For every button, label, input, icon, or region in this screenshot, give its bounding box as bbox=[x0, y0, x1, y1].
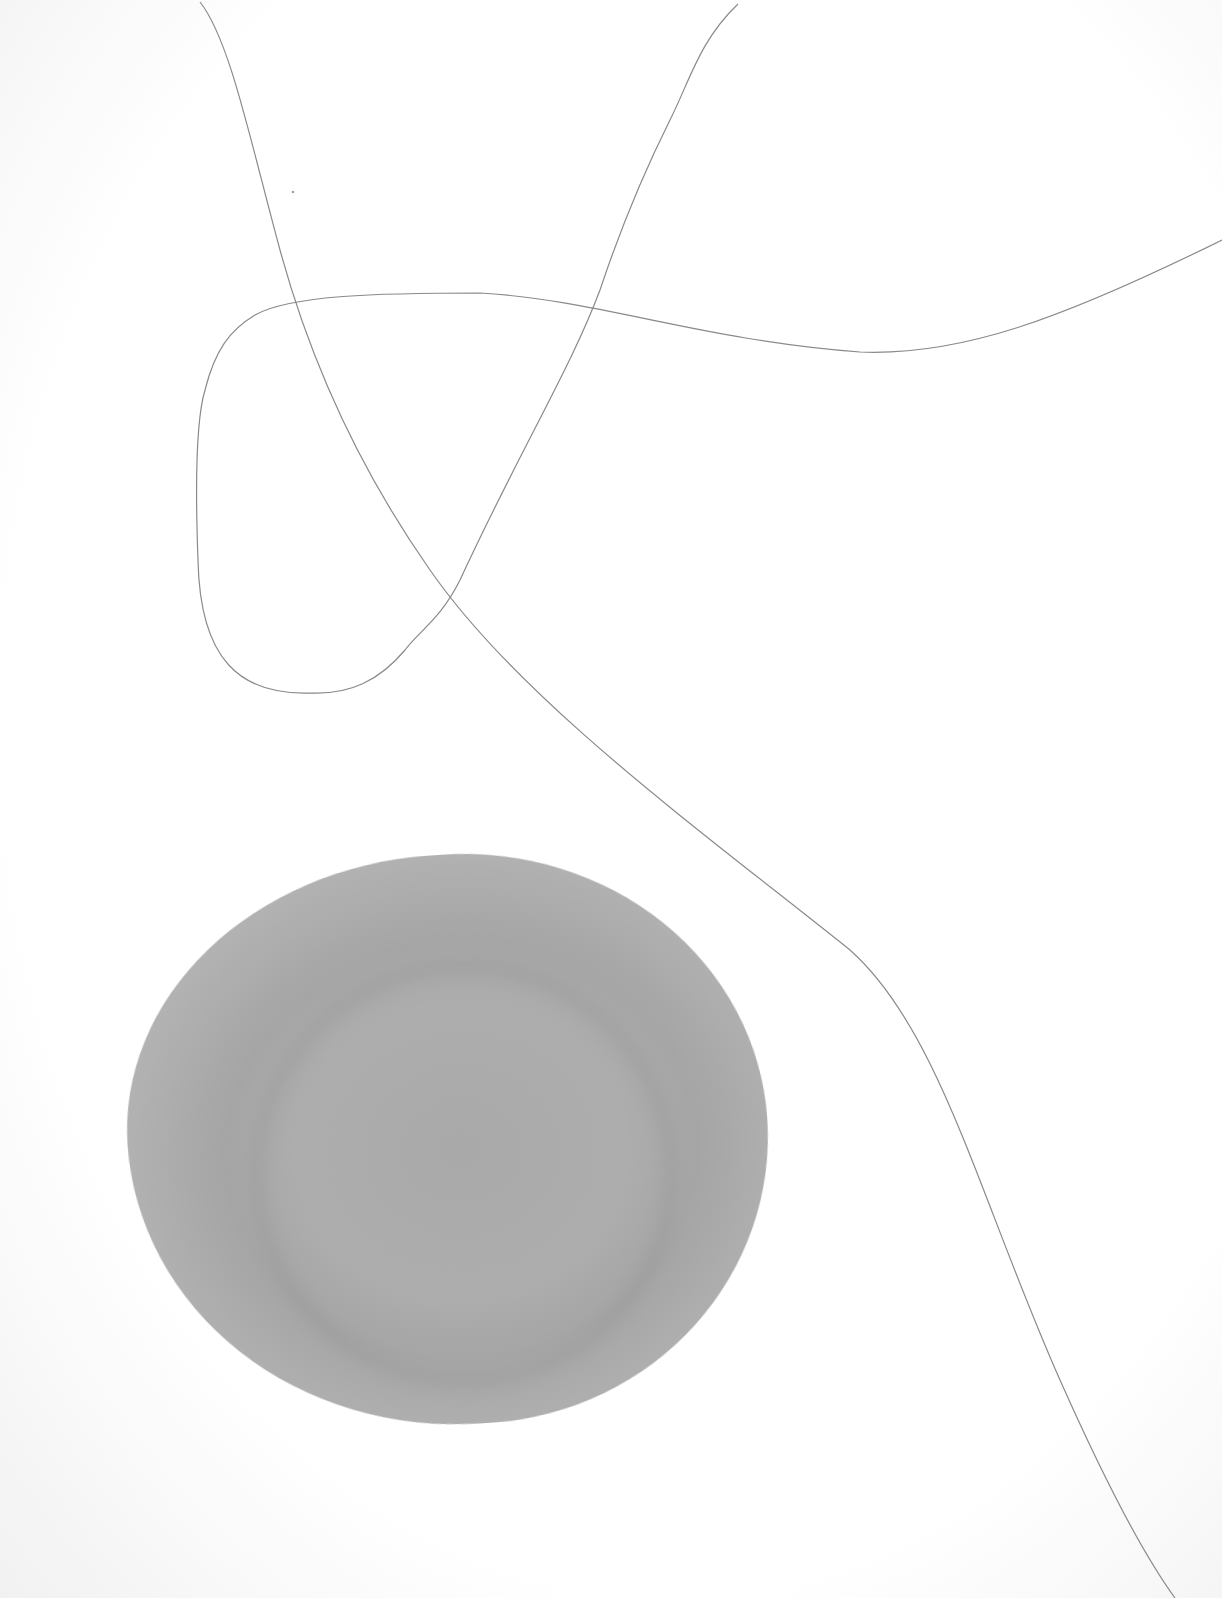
line-upper-right bbox=[196, 4, 1222, 693]
watercolor-inner-ring bbox=[250, 960, 678, 1388]
speck bbox=[292, 191, 294, 193]
